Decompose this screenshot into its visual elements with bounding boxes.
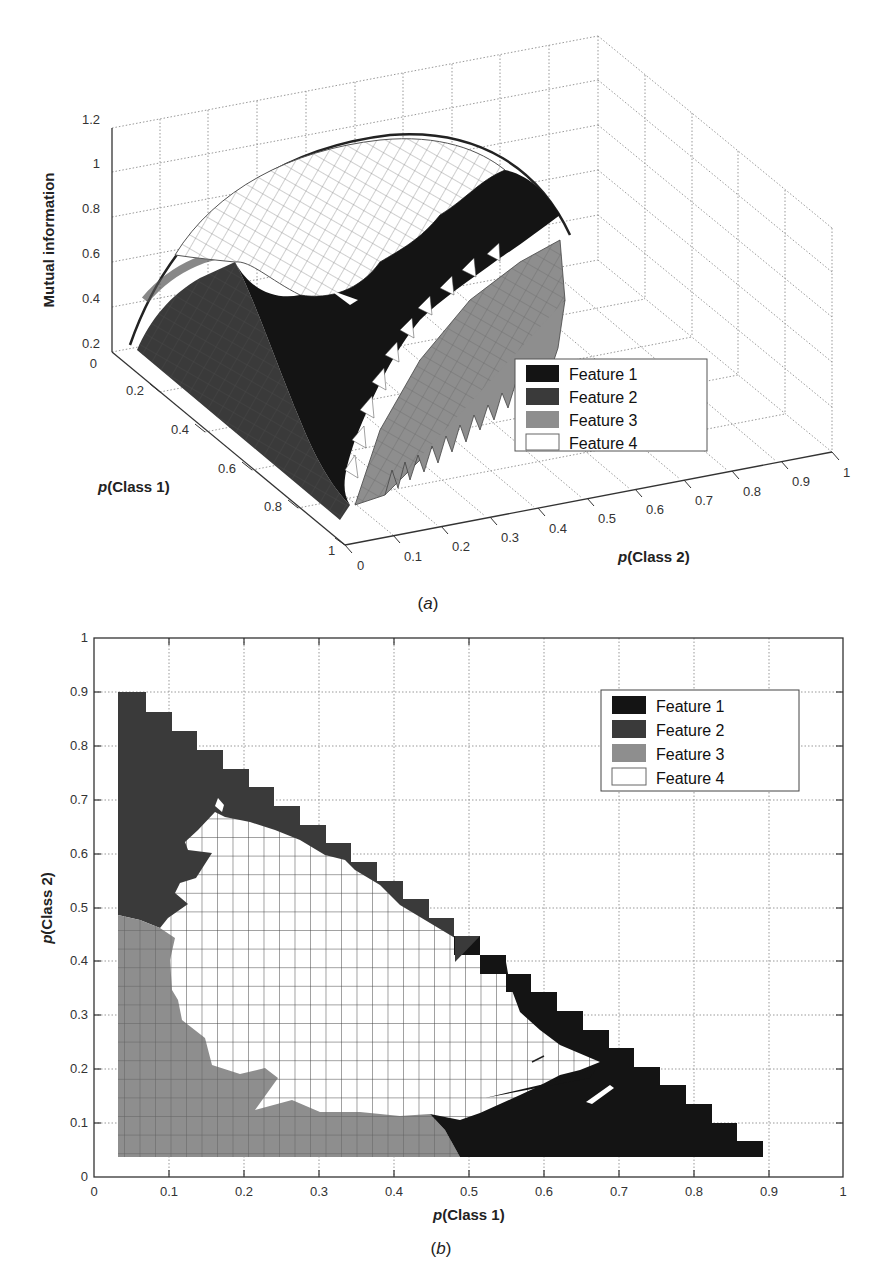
legend-swatch-feature-3: [612, 744, 646, 762]
legend-label: Feature 1: [656, 698, 725, 715]
y-tick-label: 0.7: [70, 792, 88, 807]
legend-swatch-feature-4: [612, 768, 646, 785]
legend-swatch-feature-1: [526, 365, 559, 382]
y-tick-label: 0.6: [70, 846, 88, 861]
y-tick-label: 0.4: [70, 953, 88, 968]
panel-a-y-ticks: [345, 452, 839, 553]
x-tick-label: 0: [90, 1184, 97, 1199]
x-axis-label: p(Class 1): [432, 1206, 505, 1223]
z-tick-label: 1.2: [82, 112, 100, 127]
y-tick-label: 0.8: [743, 484, 761, 499]
z-axis-label: Mutual information: [40, 173, 57, 308]
legend-label: Feature 3: [569, 412, 638, 429]
legend-label: Feature 2: [656, 722, 725, 739]
legend-swatch-feature-3: [526, 411, 559, 428]
legend-label: Feature 1: [569, 366, 638, 383]
x-tick-label: 0.3: [310, 1184, 328, 1199]
panel-b-x-tick-labels: 0 0.1 0.2 0.3 0.4 0.5 0.6 0.7 0.8 0.9 1: [90, 1184, 846, 1199]
panel-a-surface: [130, 134, 570, 520]
z-tick-label: 0.6: [82, 246, 100, 261]
y-tick-label: 1: [81, 630, 88, 645]
y-tick-label: 0.3: [70, 1007, 88, 1022]
legend-label: Feature 4: [569, 435, 638, 452]
legend-swatch-feature-2: [612, 720, 646, 738]
panel-b: 0 0.1 0.2 0.3 0.4 0.5 0.6 0.7 0.8 0.9 1 …: [38, 630, 847, 1258]
z-tick-label: 0.2: [82, 336, 100, 351]
y-tick-label: 0.5: [70, 900, 88, 915]
panel-a-caption: (a): [418, 594, 439, 613]
legend-label: Feature 3: [656, 746, 725, 763]
x-tick-label: 0.1: [160, 1184, 178, 1199]
legend-label: Feature 2: [569, 389, 638, 406]
y-tick-label: 0.2: [452, 539, 470, 554]
y-tick-label: 0.9: [792, 474, 810, 489]
z-tick-label: 0.8: [82, 201, 100, 216]
z-tick-label: 0: [90, 356, 97, 371]
y-axis-label: p(Class 2): [617, 548, 690, 565]
z-tick-label: 0.4: [82, 291, 100, 306]
y-tick-label: 0.1: [404, 549, 422, 564]
x-tick-label: 0.8: [264, 499, 282, 514]
legend-swatch-feature-2: [526, 388, 559, 405]
y-tick-label: 0: [81, 1169, 88, 1184]
x-tick-label: 0.4: [385, 1184, 403, 1199]
y-tick-label: 0.1: [70, 1115, 88, 1130]
y-tick-label: 0.6: [646, 502, 664, 517]
y-tick-label: 0.8: [70, 738, 88, 753]
x-tick-label: 0.9: [760, 1184, 778, 1199]
figure: 1.2 1 0.8 0.6 0.4 0.2 0 Mutual informati…: [0, 0, 886, 1278]
x-tick-label: 0.6: [535, 1184, 553, 1199]
y-axis-label: p(Class 2): [38, 872, 55, 945]
x-tick-label: 0.6: [218, 461, 236, 476]
x-tick-label: 1: [328, 543, 335, 558]
legend-label: Feature 4: [656, 770, 725, 787]
y-tick-label: 0: [357, 558, 364, 573]
panel-b-legend: Feature 1 Feature 2 Feature 3 Feature 4: [601, 690, 799, 791]
x-tick-label: 0.2: [126, 383, 144, 398]
legend-swatch-feature-4: [526, 434, 559, 450]
y-tick-label: 0.2: [70, 1061, 88, 1076]
x-tick-label: 1: [839, 1184, 846, 1199]
panel-a-z-ticks: 1.2 1 0.8 0.6 0.4 0.2 0: [82, 112, 100, 371]
panel-a-legend: Feature 1 Feature 2 Feature 3 Feature 4: [515, 359, 707, 452]
x-tick-label: 0.8: [685, 1184, 703, 1199]
legend-swatch-feature-1: [612, 696, 646, 714]
x-tick-label: 0.4: [171, 422, 189, 437]
x-tick-label: 0.5: [460, 1184, 478, 1199]
y-tick-label: 0.9: [70, 684, 88, 699]
y-tick-label: 0.4: [549, 521, 567, 536]
y-tick-label: 0.7: [695, 493, 713, 508]
panel-b-y-tick-labels: 0 0.1 0.2 0.3 0.4 0.5 0.6 0.7 0.8 0.9 1: [70, 630, 88, 1184]
z-tick-label: 1: [93, 156, 100, 171]
y-tick-label: 1: [843, 465, 850, 480]
y-tick-label: 0.5: [598, 511, 616, 526]
x-tick-label: 0.2: [235, 1184, 253, 1199]
panel-b-caption: (b): [431, 1239, 452, 1258]
x-axis-label: p(Class 2)(Class 1): [97, 478, 170, 495]
x-tick-label: 0.7: [610, 1184, 628, 1199]
panel-a: 1.2 1 0.8 0.6 0.4 0.2 0 Mutual informati…: [40, 36, 850, 613]
y-tick-label: 0.3: [501, 530, 519, 545]
